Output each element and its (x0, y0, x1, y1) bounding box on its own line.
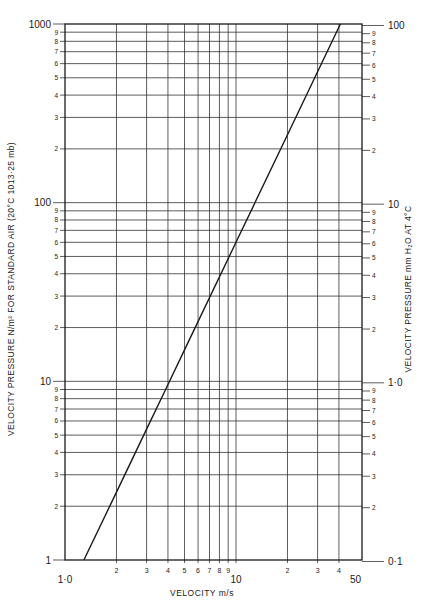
tick-labels: 1·02345678910234501234567891023456789100… (29, 19, 405, 586)
y-tick-label-left: 8 (54, 38, 58, 45)
grid-lines (53, 24, 384, 563)
y-tick-label-left: 1 (45, 555, 51, 566)
y-tick-label-left: 4 (54, 270, 58, 277)
x-tick-label: 6 (196, 567, 200, 574)
y-tick-label-right: 3 (372, 115, 376, 122)
y-tick-label-right: 8 (372, 397, 376, 404)
velocity-pressure-line (84, 24, 341, 560)
y-tick-label-right: 8 (372, 39, 376, 46)
y-tick-label-right: 5 (372, 254, 376, 261)
y-tick-label-right: 2 (372, 326, 376, 333)
y-axis-label-right: VELOCITY PRESSURE mm H₂O AT 4°C (403, 179, 417, 399)
x-tick-label: 3 (316, 567, 320, 574)
y-tick-label-right: 5 (372, 76, 376, 83)
x-tick-label: 5 (183, 567, 187, 574)
y-tick-label-right: 7 (372, 50, 376, 57)
y-tick-label-left: 7 (54, 406, 58, 413)
x-tick-label: 7 (208, 567, 212, 574)
y-tick-label-left: 7 (54, 48, 58, 55)
y-tick-label-left: 8 (54, 395, 58, 402)
y-tick-label-left: 5 (54, 253, 58, 260)
y-tick-label-left: 3 (54, 114, 58, 121)
y-tick-label-left: 9 (54, 386, 58, 393)
x-tick-label: 3 (145, 567, 149, 574)
y-tick-label-right: 1·0 (388, 377, 403, 388)
y-tick-label-right: 2 (372, 504, 376, 511)
y-tick-label-right: 3 (372, 294, 376, 301)
y-tick-label-right: 7 (372, 228, 376, 235)
y-tick-label-left: 4 (54, 449, 58, 456)
x-tick-label: 8 (217, 567, 221, 574)
y-tick-label-left: 6 (54, 239, 58, 246)
x-tick-label: 9 (226, 567, 230, 574)
y-tick-label-right: 10 (388, 199, 400, 210)
y-tick-label-right: 100 (388, 20, 405, 31)
x-tick-label: 4 (337, 567, 341, 574)
y-tick-label-right: 6 (372, 62, 376, 69)
y-tick-label-left: 8 (54, 216, 58, 223)
y-tick-label-left: 7 (54, 227, 58, 234)
y-tick-label-left: 4 (54, 92, 58, 99)
x-tick-label: 1·0 (58, 574, 73, 585)
velocity-pressure-chart: 1·02345678910234501234567891023456789100… (0, 0, 422, 610)
x-tick-label: 2 (115, 567, 119, 574)
y-tick-label-left: 6 (54, 417, 58, 424)
y-tick-label-right: 7 (372, 407, 376, 414)
y-tick-label-right: 8 (372, 218, 376, 225)
y-axis-label-left: VELOCITY PRESSURE N/m² FOR STANDARD AIR … (6, 119, 20, 459)
y-tick-label-right: 6 (372, 419, 376, 426)
y-tick-label-right: 4 (372, 450, 376, 457)
y-tick-label-left: 2 (54, 145, 58, 152)
y-tick-label-left: 2 (54, 503, 58, 510)
y-tick-label-right: 5 (372, 433, 376, 440)
y-tick-label-right: 9 (372, 30, 376, 37)
y-tick-label-right: 4 (372, 93, 376, 100)
y-tick-label-right: 6 (372, 240, 376, 247)
y-tick-label-left: 5 (54, 74, 58, 81)
y-tick-label-left: 2 (54, 324, 58, 331)
y-tick-label-right: 9 (372, 387, 376, 394)
y-tick-label-left: 6 (54, 60, 58, 67)
y-tick-label-right: 3 (372, 473, 376, 480)
y-tick-label-right: 2 (372, 147, 376, 154)
y-tick-label-left: 9 (54, 207, 58, 214)
y-tick-label-right: 0·1 (388, 556, 403, 567)
x-axis-label: VELOCITY m/s (170, 588, 234, 598)
y-tick-label-left: 3 (54, 293, 58, 300)
x-tick-label: 50 (350, 574, 362, 585)
y-tick-label-right: 4 (372, 272, 376, 279)
y-tick-label-left: 10 (40, 376, 52, 387)
x-tick-label: 10 (230, 574, 242, 585)
y-tick-label-left: 3 (54, 471, 58, 478)
y-tick-label-left: 1000 (29, 19, 52, 30)
y-tick-label-left: 9 (54, 29, 58, 36)
y-tick-label-left: 5 (54, 432, 58, 439)
x-tick-label: 4 (166, 567, 170, 574)
y-tick-label-left: 100 (34, 197, 51, 208)
y-tick-label-right: 9 (372, 209, 376, 216)
x-tick-label: 2 (286, 567, 290, 574)
